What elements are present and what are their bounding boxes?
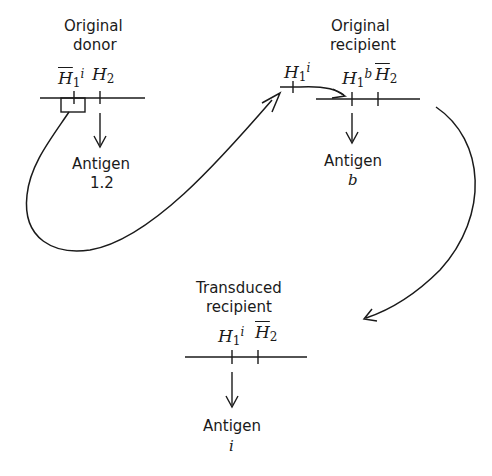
transduced-gene-h1-symbol: H bbox=[218, 326, 233, 346]
transduced-title-line1: Transduced bbox=[196, 279, 282, 297]
transduced-gene-h2-symbol: H bbox=[255, 322, 270, 342]
recipient-gene-h1: H1b bbox=[342, 64, 372, 93]
donor-antigen-value: 1.2 bbox=[90, 174, 114, 192]
donor-gene-h1: H1i bbox=[58, 64, 84, 93]
recipient-to-transduced-arrow bbox=[366, 107, 475, 318]
transduced-title-line2: recipient bbox=[206, 298, 272, 316]
fragment-gene-symbol: H bbox=[284, 62, 299, 82]
transduction-loop-arrow bbox=[26, 100, 272, 251]
donor-gene-h1-sup: i bbox=[80, 67, 84, 81]
transduced-gene-h1: H1i bbox=[218, 322, 244, 351]
recipient-title-line2: recipient bbox=[330, 36, 396, 54]
recipient-antigen-label: Antigen bbox=[324, 152, 382, 170]
recipient-gene-h2-sub: 2 bbox=[390, 72, 398, 86]
transduced-expression-arrow bbox=[226, 372, 238, 407]
donor-title-line1: Original bbox=[64, 17, 123, 35]
recipient-gene-h1-symbol: H bbox=[342, 68, 357, 88]
transduced-gene-h2: H2 bbox=[255, 322, 277, 347]
recipient-expression-arrow bbox=[346, 113, 358, 143]
transduced-antigen-label: Antigen bbox=[203, 417, 261, 435]
transduced-gene-h1-sup: i bbox=[240, 325, 244, 339]
transduced-chromosome bbox=[185, 350, 307, 364]
donor-gene-h2-symbol: H bbox=[92, 64, 107, 84]
recipient-chromosome bbox=[316, 92, 420, 106]
transduced-antigen-value: i bbox=[229, 437, 234, 455]
donor-gene-h2: H2 bbox=[92, 64, 114, 89]
recipient-gene-h1-sup: b bbox=[364, 67, 372, 81]
transduced-gene-h2-sub: 2 bbox=[270, 330, 278, 344]
fragment-gene-h1: H1i bbox=[284, 58, 310, 87]
recipient-antigen-value: b bbox=[348, 171, 358, 189]
donor-fragment-box bbox=[61, 98, 85, 112]
fragment-gene-sup: i bbox=[306, 61, 310, 75]
recipient-title-line1: Original bbox=[331, 17, 390, 35]
donor-gene-h2-sub: 2 bbox=[107, 72, 115, 86]
donor-gene-h1-symbol: H bbox=[58, 68, 73, 88]
donor-expression-arrow bbox=[94, 113, 106, 147]
recipient-gene-h2: H2 bbox=[375, 64, 397, 89]
donor-antigen-label: Antigen bbox=[72, 155, 130, 173]
recipient-gene-h2-symbol: H bbox=[375, 64, 390, 84]
donor-title-line2: donor bbox=[73, 36, 117, 54]
donor-chromosome bbox=[40, 91, 145, 112]
